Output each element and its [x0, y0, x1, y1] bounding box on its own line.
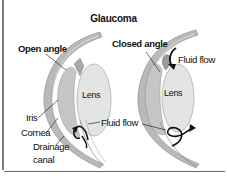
- iris-shape: [58, 67, 80, 136]
- lens-shape: [162, 64, 194, 132]
- label-fluid-flow-right: Fluid flow: [178, 54, 215, 65]
- label-drainage-line1: Drainage: [33, 141, 69, 152]
- label-open-angle: Open angle: [18, 43, 67, 54]
- diagram-frame: Glaucoma: [0, 0, 227, 182]
- label-lens-left: Lens: [82, 90, 100, 100]
- label-lens-right: Lens: [164, 88, 182, 98]
- label-cornea: Cornea: [21, 127, 50, 138]
- label-closed-angle: Closed angle: [112, 38, 168, 49]
- closed-angle-eye: [138, 30, 199, 168]
- blocked-fluid-arrow: [170, 48, 176, 66]
- label-iris: Iris: [26, 112, 37, 123]
- label-drainage-line2: canal: [33, 154, 54, 165]
- label-fluid-flow-center: Fluid flow: [101, 117, 138, 128]
